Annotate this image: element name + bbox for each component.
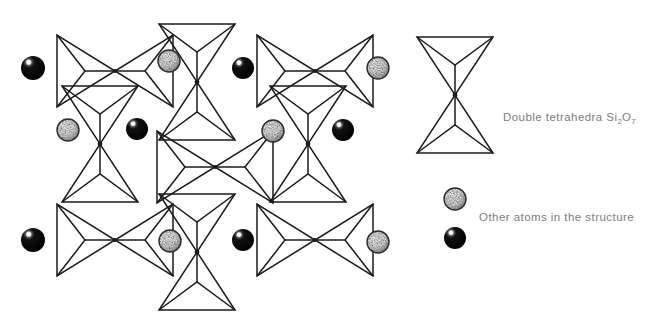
legend-black-sphere-icon bbox=[444, 227, 466, 249]
legend-label-double-tetrahedra: Double tetrahedra Si2O7 bbox=[503, 112, 636, 126]
stippled-atom-sphere bbox=[158, 50, 180, 72]
legend-label-other-atoms: Other atoms in the structure bbox=[479, 212, 634, 224]
black-atom-sphere bbox=[232, 57, 254, 79]
stippled-atom-sphere bbox=[367, 231, 389, 253]
legend-text-oxygen: O bbox=[622, 111, 631, 123]
stippled-atom-sphere bbox=[262, 120, 284, 142]
legend-stippled-sphere-icon bbox=[444, 188, 466, 210]
legend-subscript-7: 7 bbox=[631, 117, 635, 126]
figure-canvas: Double tetrahedra Si2O7 Other atoms in t… bbox=[0, 0, 651, 317]
stippled-atom-sphere bbox=[159, 230, 181, 252]
black-atom-sphere bbox=[21, 56, 45, 80]
stippled-atom-sphere bbox=[57, 119, 79, 141]
black-atom-sphere bbox=[232, 229, 254, 251]
black-atom-sphere bbox=[21, 228, 45, 252]
structure-diagram bbox=[0, 0, 651, 317]
legend-text-prefix: Double tetrahedra Si bbox=[503, 111, 617, 123]
stippled-atom-sphere bbox=[367, 57, 389, 79]
background bbox=[0, 0, 651, 317]
black-atom-sphere bbox=[126, 118, 148, 140]
black-atom-sphere bbox=[332, 119, 354, 141]
